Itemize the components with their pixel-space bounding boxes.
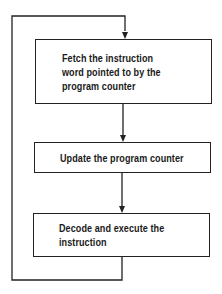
arrowhead-icon [122, 32, 128, 39]
flowchart-diagram: Fetch the instruction word pointed to by… [0, 0, 222, 294]
step-decode-box: Decode and execute the instruction [33, 213, 210, 257]
step-update-box: Update the program counter [34, 142, 211, 173]
step-fetch-label: Fetch the instruction word pointed to by… [62, 51, 161, 93]
step-update-label: Update the program counter [60, 151, 184, 165]
step-decode-label: Decode and execute the instruction [59, 221, 164, 249]
step-fetch-box: Fetch the instruction word pointed to by… [35, 39, 212, 104]
arrowhead-icon [120, 135, 126, 142]
arrowhead-icon [119, 206, 125, 213]
